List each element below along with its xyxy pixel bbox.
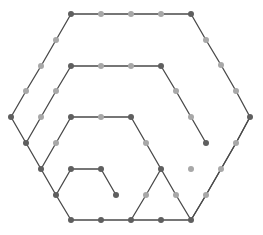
- corner-node: [98, 217, 104, 223]
- corner-node: [68, 114, 74, 120]
- mid-node: [38, 114, 44, 120]
- mid-node: [128, 11, 134, 17]
- mid-node: [53, 140, 59, 146]
- corner-node: [8, 114, 14, 120]
- mid-node: [173, 88, 179, 94]
- corner-node: [188, 217, 194, 223]
- mid-node: [158, 11, 164, 17]
- corner-node: [68, 11, 74, 17]
- mid-node: [203, 192, 209, 198]
- corner-node: [158, 217, 164, 223]
- mid-node: [233, 140, 239, 146]
- mid-node: [98, 63, 104, 69]
- mid-node: [203, 37, 209, 43]
- corner-node: [128, 114, 134, 120]
- spiral-segment: [131, 169, 191, 220]
- corner-node: [158, 63, 164, 69]
- corner-node: [23, 140, 29, 146]
- corner-node: [247, 114, 253, 120]
- mid-node: [218, 166, 224, 172]
- mid-node: [173, 192, 179, 198]
- corner-node: [98, 166, 104, 172]
- mid-node: [53, 37, 59, 43]
- mid-node: [53, 88, 59, 94]
- mid-node: [98, 11, 104, 17]
- spiral-segment: [26, 66, 206, 143]
- mid-node: [38, 63, 44, 69]
- hexagon-spiral-diagram: [0, 0, 263, 235]
- spiral-nodes: [8, 11, 253, 223]
- corner-node: [113, 192, 119, 198]
- mid-node: [143, 140, 149, 146]
- mid-node: [188, 166, 194, 172]
- corner-node: [128, 217, 134, 223]
- mid-node: [188, 114, 194, 120]
- corner-node: [38, 166, 44, 172]
- corner-node: [68, 166, 74, 172]
- corner-node: [68, 63, 74, 69]
- corner-node: [68, 217, 74, 223]
- corner-node: [53, 192, 59, 198]
- corner-node: [158, 166, 164, 172]
- mid-node: [218, 62, 224, 68]
- mid-node: [128, 63, 134, 69]
- corner-node: [188, 11, 194, 17]
- mid-node: [23, 88, 29, 94]
- mid-node: [233, 88, 239, 94]
- corner-node: [203, 140, 209, 146]
- mid-node: [143, 192, 149, 198]
- mid-node: [98, 114, 104, 120]
